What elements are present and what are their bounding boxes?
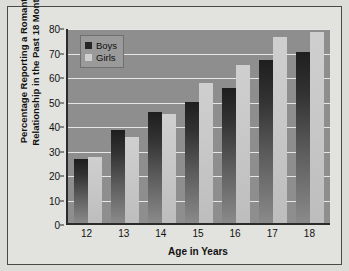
y-axis-tick-label: 10 xyxy=(49,195,60,206)
y-axis-tick-label: 30 xyxy=(49,146,60,157)
x-axis-tick-label: 17 xyxy=(254,228,291,244)
y-axis-tick-mark xyxy=(60,53,64,54)
legend-swatch-girls-icon xyxy=(85,54,92,61)
y-axis-title-line-1: Percentage Reporting a Romantic xyxy=(18,0,30,165)
x-axis-tick-label: 13 xyxy=(105,228,142,244)
bar-girls-age-13 xyxy=(125,137,139,223)
y-axis-tick-mark xyxy=(60,102,64,103)
y-axis-tick-label: 80 xyxy=(49,24,60,35)
x-axis-tick-label: 12 xyxy=(68,228,105,244)
chart-figure: Percentage Reporting a Romantic Relation… xyxy=(0,0,349,271)
bar-girls-age-16 xyxy=(236,65,250,223)
bar-boys-age-16 xyxy=(222,88,236,223)
bar-group xyxy=(291,29,328,223)
y-axis-tick-mark xyxy=(60,78,64,79)
y-axis-tick-label: 50 xyxy=(49,97,60,108)
y-axis-tick-mark xyxy=(60,176,64,177)
legend-label-boys: Boys xyxy=(96,40,117,51)
bar-girls-age-18 xyxy=(310,32,324,223)
bar-boys-age-12 xyxy=(74,159,88,223)
bar-boys-age-18 xyxy=(296,52,310,224)
chart-legend: Boys Girls xyxy=(80,35,124,68)
bar-group xyxy=(217,29,254,223)
legend-label-girls: Girls xyxy=(96,52,116,63)
y-axis-tick-mark xyxy=(60,200,64,201)
bar-boys-age-14 xyxy=(148,112,162,223)
y-axis-tick-mark xyxy=(60,151,64,152)
x-axis-tick-label: 14 xyxy=(142,228,179,244)
bar-group xyxy=(144,29,181,223)
legend-item-boys: Boys xyxy=(85,39,117,51)
x-axis-ticks: 12131415161718 xyxy=(66,228,330,244)
bar-boys-age-15 xyxy=(185,102,199,223)
chart-frame: Percentage Reporting a Romantic Relation… xyxy=(7,6,342,265)
y-axis-tick-mark xyxy=(60,127,64,128)
y-axis-tick-mark xyxy=(60,29,64,30)
legend-item-girls: Girls xyxy=(85,51,117,63)
plot-area: Boys Girls xyxy=(66,29,330,225)
bar-group xyxy=(254,29,291,223)
x-axis-title: Age in Years xyxy=(66,246,330,257)
x-axis-tick-label: 15 xyxy=(179,228,216,244)
y-axis-tick-label: 20 xyxy=(49,171,60,182)
bar-boys-age-17 xyxy=(259,60,273,223)
bar-girls-age-12 xyxy=(88,157,102,223)
bar-girls-age-17 xyxy=(273,37,287,223)
bar-group xyxy=(181,29,218,223)
x-axis-tick-label: 16 xyxy=(217,228,254,244)
y-axis-tick-mark xyxy=(60,225,64,226)
x-axis-tick-label: 18 xyxy=(291,228,328,244)
y-axis-tick-label: 60 xyxy=(49,73,60,84)
bar-girls-age-15 xyxy=(199,83,213,223)
y-axis-tick-label: 70 xyxy=(49,48,60,59)
bar-girls-age-14 xyxy=(162,114,176,223)
y-axis-ticks: 01020304050607080 xyxy=(38,29,64,225)
bar-boys-age-13 xyxy=(111,130,125,223)
legend-swatch-boys-icon xyxy=(85,42,92,49)
y-axis-tick-label: 40 xyxy=(49,122,60,133)
